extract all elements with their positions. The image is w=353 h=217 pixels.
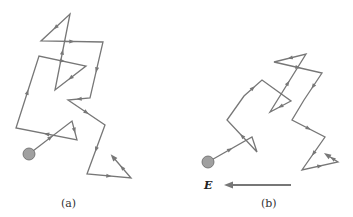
field-arrowhead-icon [224,182,233,189]
electric-field-label: E [204,179,212,192]
arrowhead-icon [285,81,290,87]
arrowhead-icon [324,153,332,159]
arrowhead-icon [278,103,284,107]
panel-a-random-walk-no-field [16,14,131,178]
electron-start-dot [23,148,35,160]
electron-start-dot [202,156,214,168]
arrowhead-icon [72,127,76,133]
arrowhead-icon [69,39,74,43]
trajectory-path [208,54,338,170]
panel-b-random-walk-with-field [202,54,338,170]
caption-b: (b) [261,197,277,210]
arrowhead-icon [330,157,336,162]
arrowhead-icon [25,89,29,95]
arrowhead-icon [95,146,99,152]
random-walk-figure [0,0,353,217]
electric-field-arrow [224,182,291,189]
arrowhead-icon [227,148,233,152]
caption-a: (a) [61,197,76,210]
arrowhead-icon [287,55,293,59]
arrowhead-icon [312,83,317,89]
arrowhead-icon [305,125,311,129]
